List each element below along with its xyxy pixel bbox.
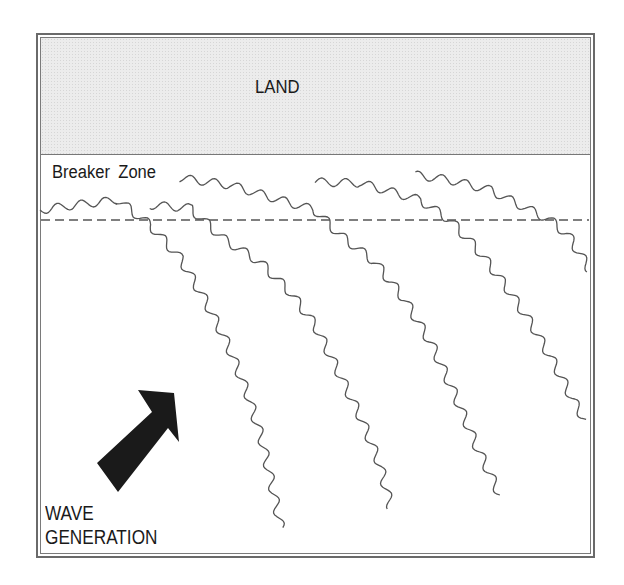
wave-generation-label: WAVE GENERATION — [45, 501, 157, 549]
diagram-frame: LAND Breaker Zone WAVE GENERATION — [40, 37, 591, 554]
land-region: LAND — [41, 38, 590, 155]
wave-generation-label-line2: GENERATION — [45, 525, 157, 549]
land-label: LAND — [255, 76, 300, 98]
breaker-zone-label: Breaker Zone — [52, 162, 156, 183]
wave-generation-label-line1: WAVE — [45, 501, 157, 525]
